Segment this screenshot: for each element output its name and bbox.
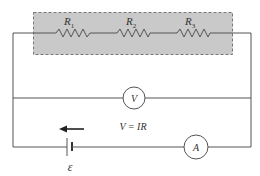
emf-label: ε <box>68 160 73 174</box>
equation-text: V = IR <box>119 121 146 132</box>
left-arrow-icon <box>59 126 67 133</box>
ammeter-label: A <box>192 142 200 153</box>
circuit-diagram: R1 R2 R3 V V = IR ε A <box>0 0 260 176</box>
